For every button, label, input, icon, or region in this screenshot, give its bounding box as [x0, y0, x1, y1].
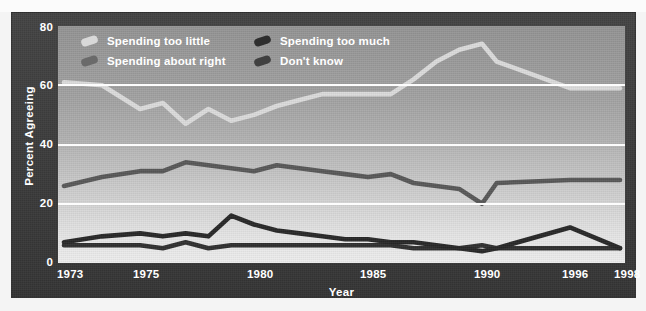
- x-tick-1985: 1985: [360, 268, 386, 280]
- plot-area: Spending too little Spending too much Sp…: [58, 26, 625, 263]
- y-axis-title: Percent Agreeing: [23, 71, 35, 201]
- x-tick-1996: 1996: [562, 268, 588, 280]
- line-swatch-icon: [253, 35, 272, 48]
- legend-item-spending-too-little[interactable]: Spending too little: [81, 32, 210, 50]
- x-tick-1998: 1998: [614, 268, 640, 280]
- line-swatch-icon: [80, 55, 99, 68]
- legend-item-dont-know[interactable]: Don't know: [254, 52, 343, 70]
- x-tick-1990: 1990: [474, 268, 500, 280]
- y-tick-80: 80: [21, 22, 53, 33]
- x-tick-1975: 1975: [133, 268, 159, 280]
- legend-item-spending-about-right[interactable]: Spending about right: [81, 52, 226, 70]
- series-line-dont-know: [64, 242, 620, 248]
- x-tick-1980: 1980: [247, 268, 273, 280]
- series-line-spending-about-right: [64, 162, 620, 203]
- chart-figure: 80 60 40 20 0 Percent Agreeing: [0, 0, 646, 311]
- line-swatch-icon: [253, 55, 272, 68]
- line-swatch-icon: [80, 35, 99, 48]
- x-tick-1973: 1973: [57, 268, 83, 280]
- chart-frame: 80 60 40 20 0 Percent Agreeing: [11, 12, 636, 298]
- gridline-60: [58, 84, 625, 86]
- y-tick-0: 0: [21, 257, 53, 268]
- legend-label: Spending too little: [107, 35, 210, 47]
- gridline-20: [58, 203, 625, 205]
- x-axis-title: Year: [58, 286, 625, 298]
- gridline-40: [58, 144, 625, 146]
- chart-legend: Spending too little Spending too much Sp…: [81, 32, 411, 74]
- legend-label: Don't know: [280, 55, 343, 67]
- legend-label: Spending too much: [280, 35, 390, 47]
- legend-item-spending-too-much[interactable]: Spending too much: [254, 32, 390, 50]
- page-top-sliver: [0, 0, 646, 12]
- legend-label: Spending about right: [107, 55, 226, 67]
- x-axis-ticks: 1973 1975 1980 1985 1990 1996 1998: [58, 268, 625, 284]
